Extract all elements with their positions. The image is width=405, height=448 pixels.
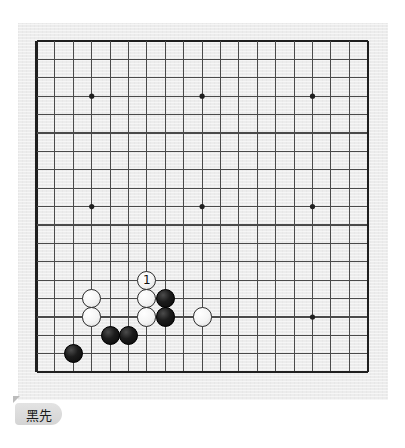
go-stone-black: [64, 344, 83, 363]
caption-badge: 黑先: [15, 403, 62, 425]
go-stone-white: [137, 289, 156, 308]
go-stone-white: [193, 307, 212, 326]
go-stone-white: [137, 307, 156, 326]
go-stone-white: [82, 289, 101, 308]
go-stone-black: [101, 326, 120, 345]
go-stone-black: [156, 307, 175, 326]
caption-label: 黑先: [26, 405, 52, 424]
go-stone-black: [119, 326, 138, 345]
go-stones-layer: 1: [18, 23, 388, 400]
go-stone-white-move-1: 1: [137, 271, 156, 290]
stone-move-number: 1: [138, 272, 155, 289]
go-board-panel: 1: [18, 23, 388, 400]
go-stone-black: [156, 289, 175, 308]
caption-corner-tab: [13, 396, 20, 403]
go-stone-white: [82, 307, 101, 326]
